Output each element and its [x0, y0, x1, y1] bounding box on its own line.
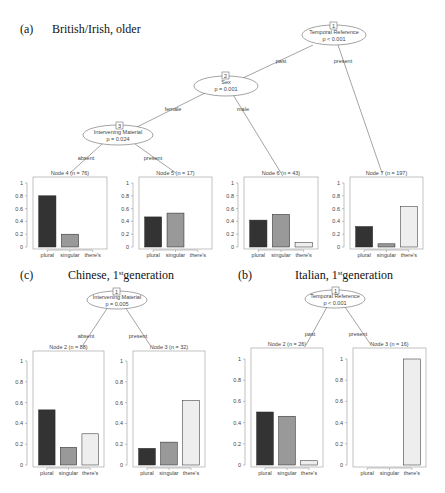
svg-text:there's: there's	[404, 470, 421, 476]
svg-text:0.6: 0.6	[121, 206, 129, 212]
svg-text:1: 1	[231, 180, 234, 186]
svg-text:plural: plural	[140, 470, 153, 476]
svg-text:0.4: 0.4	[121, 218, 129, 224]
svg-text:there's: there's	[84, 252, 101, 258]
svg-text:there's: there's	[82, 470, 99, 476]
svg-text:plural: plural	[41, 252, 54, 258]
bar-panel: Node 7 (n = 197)00.20.40.60.81pluralsing…	[332, 170, 423, 258]
panel-node-title: Node 7 (n = 197)	[366, 170, 408, 176]
svg-text:Temporal Reference: Temporal Reference	[310, 293, 360, 299]
tree-a-edges	[70, 45, 382, 173]
svg-text:singular: singular	[59, 470, 78, 476]
svg-text:plural: plural	[252, 252, 265, 258]
svg-text:0.8: 0.8	[233, 377, 241, 383]
panel-node-title: Node 2 (n = 26)	[268, 341, 307, 347]
bar	[167, 213, 184, 247]
panel-node-title: Node 3 (n = 16)	[370, 341, 409, 347]
bar-panel: Node 2 (n = 88)00.20.40.60.81pluralsingu…	[15, 344, 104, 476]
bar-panel: Node 3 (n = 32)00.20.40.60.81pluralsingu…	[115, 344, 205, 476]
svg-text:Chinese, 1stgeneration: Chinese, 1stgeneration	[68, 268, 174, 282]
tree-b-edges	[306, 307, 371, 345]
svg-text:present: present	[349, 331, 368, 337]
svg-text:0.2: 0.2	[15, 231, 23, 237]
svg-text:0.8: 0.8	[15, 193, 23, 199]
figure: (a) British/Irish, older (c) Chinese, 1s…	[0, 0, 445, 493]
panel-label-b: (b)	[238, 268, 252, 282]
tree-node-c1: 1 Intervening Material p = 0.005	[87, 288, 147, 309]
svg-text:0: 0	[340, 462, 343, 468]
svg-text:singular: singular	[277, 470, 296, 476]
panel-node-title: Node 5 (n = 17)	[156, 170, 195, 176]
svg-text:0.2: 0.2	[233, 441, 241, 447]
svg-text:0.8: 0.8	[15, 379, 23, 385]
svg-text:Temporal Reference: Temporal Reference	[309, 29, 359, 35]
svg-text:0.2: 0.2	[335, 441, 343, 447]
svg-text:present: present	[144, 155, 163, 161]
svg-text:0.4: 0.4	[332, 218, 340, 224]
svg-text:plural: plural	[357, 252, 370, 258]
svg-text:plural: plural	[146, 252, 159, 258]
svg-text:plural: plural	[360, 470, 373, 476]
svg-text:0.4: 0.4	[15, 420, 23, 426]
tree-node-a1: 1 Temporal Reference p < 0.001	[302, 22, 366, 45]
svg-text:0.6: 0.6	[15, 206, 23, 212]
bar	[279, 416, 296, 465]
bar-panel: Node 2 (n = 26)00.20.40.60.81pluralsingu…	[233, 341, 323, 476]
svg-text:past: past	[305, 331, 316, 337]
bar	[378, 244, 395, 247]
panel-node-title: Node 4 (n = 76)	[51, 170, 90, 176]
svg-text:0: 0	[337, 244, 340, 250]
svg-text:0: 0	[126, 244, 129, 250]
svg-text:Intervening Material: Intervening Material	[94, 129, 142, 135]
panel-title-c: Chinese, 1	[68, 268, 119, 282]
heading-c: (c) Chinese, 1stgeneration	[20, 268, 174, 282]
svg-text:0: 0	[20, 462, 23, 468]
bar-panel: Node 4 (n = 76)00.20.40.60.81pluralsingu…	[15, 170, 107, 258]
heading-b: (b) Italian, 1stgeneration	[238, 268, 393, 282]
svg-text:0.2: 0.2	[332, 231, 340, 237]
panel-label-a: (a)	[20, 22, 33, 36]
svg-text:0.4: 0.4	[115, 420, 123, 426]
svg-text:0.8: 0.8	[121, 193, 129, 199]
svg-text:there's: there's	[190, 252, 207, 258]
svg-text:singular: singular	[380, 470, 399, 476]
svg-text:p < 0.001: p < 0.001	[323, 300, 346, 306]
bar-panel: Node 3 (n = 16)00.20.40.60.81pluralsingu…	[335, 341, 426, 476]
svg-text:Intervening Material: Intervening Material	[93, 294, 141, 300]
bar	[250, 220, 267, 247]
bar	[183, 401, 200, 465]
bar	[400, 207, 417, 247]
bar	[61, 234, 78, 247]
svg-text:0.2: 0.2	[15, 441, 23, 447]
svg-text:male: male	[237, 106, 249, 112]
bar	[60, 447, 76, 465]
bar	[403, 359, 420, 465]
svg-text:singular: singular	[271, 252, 290, 258]
svg-text:1: 1	[238, 356, 241, 362]
svg-text:0.4: 0.4	[335, 420, 343, 426]
svg-text:0: 0	[238, 462, 241, 468]
bar	[139, 448, 156, 465]
svg-text:there's: there's	[183, 470, 200, 476]
svg-text:1: 1	[20, 180, 23, 186]
svg-text:1: 1	[126, 180, 129, 186]
svg-text:1: 1	[340, 356, 343, 362]
panel-title-b: Italian, 1	[295, 268, 338, 282]
svg-text:0.6: 0.6	[226, 206, 234, 212]
bar	[257, 412, 274, 465]
panel-node-title: Node 2 (n = 88)	[49, 344, 88, 350]
bar	[82, 434, 98, 465]
tree-node-b1: 1 Temporal Reference p < 0.001	[305, 287, 365, 308]
heading-a: (a) British/Irish, older	[20, 22, 141, 36]
svg-text:singular: singular	[377, 252, 396, 258]
bar-panel: Node 5 (n = 17)00.20.40.60.81pluralsingu…	[121, 170, 212, 258]
svg-text:p = 0.024: p = 0.024	[106, 136, 129, 142]
svg-text:Italian, 1stgeneration: Italian, 1stgeneration	[295, 268, 393, 282]
svg-text:p = 0.005: p = 0.005	[105, 301, 128, 307]
svg-text:0: 0	[120, 462, 123, 468]
svg-text:absent: absent	[78, 155, 95, 161]
svg-text:0.8: 0.8	[115, 379, 123, 385]
svg-text:0.6: 0.6	[332, 206, 340, 212]
bar	[39, 196, 56, 247]
bar-panel: Node 6 (n = 43)00.20.40.60.81pluralsingu…	[226, 170, 318, 258]
